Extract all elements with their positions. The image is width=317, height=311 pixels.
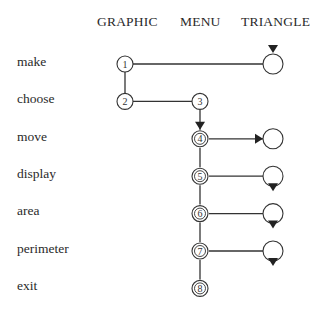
- state-diagram: 12345678: [0, 0, 317, 311]
- node-t-move: [263, 129, 283, 149]
- arrowhead-3-4: [195, 122, 205, 130]
- node-label-5: 5: [198, 171, 203, 182]
- node-label-2: 2: [123, 96, 128, 107]
- exit-arrow-icon: [268, 258, 278, 266]
- node-label-8: 8: [198, 283, 203, 294]
- node-label-7: 7: [198, 246, 203, 257]
- exit-arrow-icon: [268, 221, 278, 229]
- node-label-6: 6: [198, 208, 203, 219]
- exit-arrow-icon: [268, 183, 278, 191]
- node-t-make: [263, 54, 283, 74]
- entry-arrow-icon: [268, 45, 278, 53]
- node-label-4: 4: [198, 133, 203, 144]
- arrowhead-4-t-move: [255, 134, 263, 144]
- node-label-3: 3: [198, 96, 203, 107]
- node-label-1: 1: [123, 59, 128, 70]
